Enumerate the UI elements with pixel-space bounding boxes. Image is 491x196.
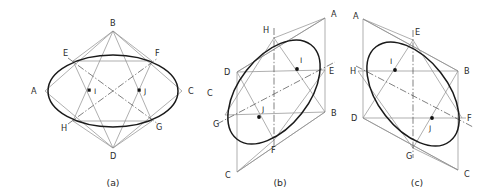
center-label-a-J: J [143,87,146,96]
center-label-b-I: I [300,56,302,65]
center-dot-j-b [257,115,261,119]
vertex-label-c-C: C [464,169,470,179]
vertex-label-b-D: D [224,67,230,77]
center-dot-i-b [295,67,299,71]
vertex-label-b-B: B [331,108,337,118]
tangent-label-b-G: G [213,119,219,129]
vertex-label-c-D: D [351,113,357,123]
panel-caption-a: (a) [107,177,120,188]
center-dot-i-a [88,89,91,92]
vertex-label-c-B: B [464,66,470,76]
vertex-label-c-A: A [353,11,359,21]
center-label-b-J: J [261,105,264,114]
construction-lines-c [358,19,466,170]
tangent-label-c-H: H [350,66,356,76]
center-label-a-I: I [94,87,96,96]
center-dot-j-a [138,89,141,92]
vertex-label-a-D: D [110,151,116,161]
vertex-label-b-A: A [331,9,337,19]
vertex-label-a-B: B [110,18,116,28]
center-label-c-J: J [428,124,431,133]
vertex-label-b-C: C [225,170,231,180]
tangent-label-a-H: H [61,123,67,133]
rhombus-outline-b [237,18,325,172]
tangent-label-a-G: G [156,122,162,132]
panel-caption-c: (c) [411,177,423,188]
tangent-label-a-F: F [155,48,160,58]
tangent-label-b-F: F [271,145,276,155]
tangent-label-a-E: E [63,48,68,58]
rhombus-outline-c [363,19,458,170]
vertex-label-b-C-left: C [207,88,213,98]
center-label-c-I: I [390,57,392,66]
center-point-markers-c [393,68,434,120]
diagram-panel-b: A B C D C H E F G I J (b) [205,0,345,196]
figure-container: A B C D E F G H I J (a) [0,0,491,196]
diagram-panel-a: A B C D E F G H I J (a) [0,0,210,196]
vertex-label-a-C: C [188,86,194,96]
tangent-label-b-E: E [329,66,334,76]
center-dot-j-c [430,116,434,120]
panel-caption-b: (b) [273,177,286,188]
diagram-panel-c: A B C D E F G H I J (c) [345,0,491,196]
tangent-label-c-F: F [467,113,472,123]
center-dot-i-c [393,68,397,72]
vertex-label-a-A: A [31,86,37,96]
tangent-label-b-H: H [263,25,269,35]
tangent-label-c-G: G [406,151,412,161]
tangent-label-c-E: E [415,27,420,37]
